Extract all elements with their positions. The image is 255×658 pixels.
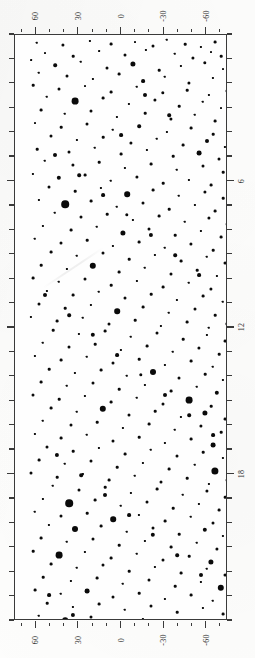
star-marker [173, 253, 177, 257]
star-marker [168, 312, 170, 314]
star-marker [68, 346, 71, 349]
star-marker [102, 97, 105, 100]
star-marker [122, 583, 124, 585]
dec-top-minor-tick [134, 29, 135, 32]
star-marker [103, 493, 107, 497]
star-marker [136, 86, 138, 88]
star-marker [164, 598, 166, 600]
star-marker [44, 52, 46, 54]
star-marker [150, 293, 153, 296]
star-marker [162, 403, 165, 406]
star-marker [172, 351, 174, 353]
star-marker [207, 216, 210, 219]
star-marker [136, 553, 138, 555]
ra-minor-tick [227, 58, 232, 59]
star-marker [98, 161, 101, 164]
star-marker [134, 41, 136, 43]
star-marker [61, 200, 69, 208]
star-marker [94, 499, 97, 502]
star-marker [46, 446, 49, 449]
star-marker [168, 208, 171, 211]
star-marker [124, 609, 126, 611]
ra-minor-tick [227, 204, 232, 205]
star-marker [98, 50, 100, 52]
star-marker [110, 516, 116, 522]
star-marker [164, 247, 166, 249]
star-marker [222, 379, 224, 381]
star-marker [120, 153, 123, 156]
star-marker [32, 84, 35, 87]
star-marker [150, 369, 156, 375]
star-marker [38, 303, 41, 306]
star-marker [215, 547, 218, 550]
dec-bottom-tick [120, 621, 121, 628]
star-marker [66, 75, 69, 78]
star-marker [76, 139, 78, 141]
star-marker [164, 442, 166, 444]
ra-minor-tick [227, 497, 232, 498]
star-marker [208, 94, 210, 96]
dec-bottom-minor-tick [21, 623, 22, 626]
star-marker [108, 323, 111, 326]
dec-top-minor-tick [191, 29, 192, 32]
star-marker [160, 325, 162, 327]
star-marker [100, 406, 106, 412]
star-marker [190, 438, 193, 441]
star-marker [32, 173, 34, 175]
star-marker [194, 114, 196, 116]
dec-top-minor-tick [148, 29, 149, 32]
star-marker [124, 191, 130, 197]
ra-minor-tick [227, 351, 232, 352]
star-marker [101, 193, 105, 197]
star-marker [124, 453, 127, 456]
star-marker [112, 129, 114, 131]
star-marker [34, 511, 36, 513]
star-marker [206, 334, 208, 336]
dec-top-label: 0 [116, 14, 125, 18]
star-marker [76, 255, 78, 257]
dec-bottom-label: 0 [116, 638, 125, 642]
dec-top-minor-tick [21, 29, 22, 32]
dec-bottom-minor-tick [63, 623, 64, 626]
star-marker [146, 149, 148, 151]
star-marker [174, 429, 176, 431]
dec-bottom-minor-tick [106, 623, 107, 626]
star-marker [152, 45, 155, 48]
star-marker [220, 236, 223, 239]
dec-bottom-minor-tick [191, 623, 192, 626]
star-marker [148, 579, 151, 582]
ra-minor-tick [227, 448, 232, 449]
star-marker [124, 167, 126, 169]
ra-major-tick-left [7, 326, 14, 327]
star-marker [222, 68, 224, 70]
star-marker [182, 494, 184, 496]
star-marker [130, 492, 132, 494]
star-marker [166, 131, 168, 133]
star-marker [222, 301, 224, 303]
star-marker [162, 182, 165, 185]
ra-minor-tick [227, 278, 232, 279]
star-marker [42, 342, 44, 344]
star-marker [118, 73, 121, 76]
star-marker [176, 169, 178, 171]
star-marker [199, 424, 202, 427]
star-marker [38, 459, 41, 462]
star-marker [84, 85, 86, 87]
star-marker [170, 546, 173, 549]
star-marker [64, 463, 66, 465]
star-marker [50, 251, 53, 254]
star-marker [84, 278, 87, 281]
ra-minor-tick [227, 155, 232, 156]
star-marker [215, 391, 219, 395]
star-marker [119, 133, 123, 137]
dec-bottom-minor-tick [177, 623, 178, 626]
star-marker [139, 373, 142, 376]
star-marker [154, 410, 157, 413]
dec-bottom-tick [205, 621, 206, 628]
star-marker [202, 451, 205, 454]
star-marker [178, 377, 181, 380]
star-marker [118, 544, 121, 547]
star-marker [36, 42, 38, 44]
star-marker [102, 136, 105, 139]
star-marker [90, 616, 93, 619]
